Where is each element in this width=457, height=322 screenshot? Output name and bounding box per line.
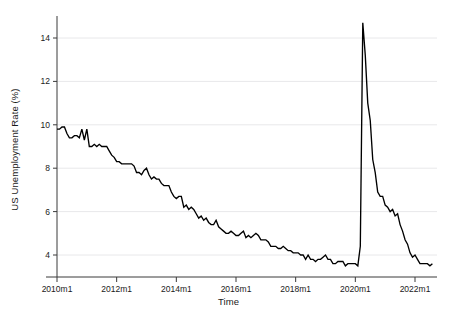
x-tick-label: 2016m1: [221, 284, 252, 294]
x-tick-label: 2014m1: [161, 284, 192, 294]
gridlines-group: [57, 38, 437, 255]
x-tick-label: 2018m1: [280, 284, 311, 294]
y-tick-label: 6: [45, 207, 50, 217]
y-tick-label: 12: [41, 76, 51, 86]
x-tick-label: 2012m1: [101, 284, 132, 294]
x-axis-title: Time: [0, 296, 457, 307]
x-axis-ticks-group: 2010m12012m12014m12016m12018m12020m12022…: [42, 277, 431, 294]
unemployment-rate-line: [57, 23, 432, 266]
y-tick-label: 4: [45, 250, 50, 260]
y-axis-title: US Unemployment Rate (%): [9, 65, 20, 235]
line-chart-canvas: 468101214 2010m12012m12014m12016m12018m1…: [0, 0, 457, 322]
x-tick-label: 2022m1: [400, 284, 431, 294]
x-tick-label: 2010m1: [42, 284, 73, 294]
y-tick-label: 14: [41, 33, 51, 43]
x-tick-label: 2020m1: [340, 284, 371, 294]
y-tick-label: 8: [45, 163, 50, 173]
y-tick-label: 10: [41, 120, 51, 130]
chart-figure: 468101214 2010m12012m12014m12016m12018m1…: [0, 0, 457, 322]
y-axis-ticks-group: 468101214: [41, 33, 57, 260]
